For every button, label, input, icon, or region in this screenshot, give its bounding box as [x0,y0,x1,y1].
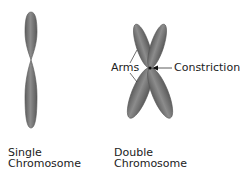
constriction-label: Constriction [174,62,240,74]
single-chromosome [25,12,37,128]
double-caption-line2: Chromosome [114,158,187,170]
arms-label: Arms [111,62,139,74]
single-caption-line2: Chromosome [8,158,81,170]
